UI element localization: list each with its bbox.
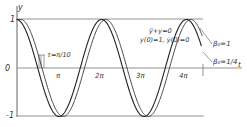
y-tick-0: 0 [5,64,10,73]
x-tick-pi: π [56,72,61,80]
beta2-leader [203,52,212,62]
y-axis-label: y [17,3,23,12]
oscillation-chart: y 1 0 -1 π 2π 3π 4π t τ=π/10 ÿ+y=0 y(0)=… [0,0,247,127]
equation-label: ÿ+y=0 [148,27,172,35]
beta1-label: β₀=1 [213,40,231,48]
x-tick-2pi: 2π [95,72,104,80]
beta2-label: β₀=1/4 [213,58,237,66]
tau-label: τ=π/10 [47,51,71,59]
y-tick-minus1: -1 [6,111,14,120]
t-axis-label: t [238,61,241,69]
x-tick-3pi: 3π [136,72,145,80]
y-tick-1: 1 [10,15,15,24]
initial-conditions-label: y(0)=1, ẏ(0)=0 [139,36,189,44]
x-tick-4pi: 4π [179,72,188,80]
